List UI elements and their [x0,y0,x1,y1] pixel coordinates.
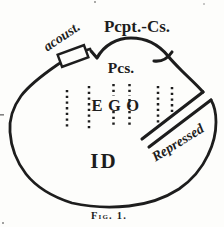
scan-speck [203,3,205,5]
freud-ego-id-figure: Pcpt.-Cs. Pcs. acoust. EGO ID Repressed … [0,0,224,227]
scan-speck [94,1,96,3]
pcs-label: Pcs. [108,59,134,76]
acoustic-cap-rect [58,45,89,67]
page-edge-artifact [0,114,4,116]
figure-caption: Fig. 1. [91,210,127,221]
scan-speck [2,222,4,224]
diagram-canvas: Pcpt.-Cs. Pcs. acoust. EGO ID Repressed … [0,0,224,227]
ego-label: EGO [91,96,144,115]
pcpt-cs-label: Pcpt.-Cs. [104,17,170,36]
id-label: ID [90,149,117,173]
